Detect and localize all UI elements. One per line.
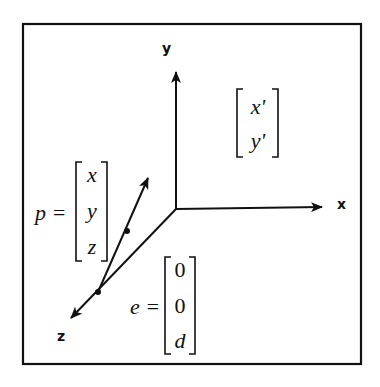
x-axis-label: x [337,197,346,211]
eye-point-dot [95,289,101,295]
e-entry-d: d [168,330,192,352]
z-axis-label: z [57,329,65,343]
projection-diagram: y x z p = x y z e = 0 0 d x' y' [0,0,380,387]
p-entry-y: y [80,200,104,222]
y-axis-label: y [162,41,171,55]
point-p-dot [124,228,130,234]
projected-entry-x: x' [240,96,276,118]
z-axis [71,209,176,318]
e-entry-0b: 0 [168,295,192,317]
x-axis [176,207,322,209]
p-entry-z: z [80,236,104,258]
e-vector-lhs: e = [130,296,160,318]
projected-entry-y: y' [240,130,276,152]
p-vector-lhs: p = [35,202,66,224]
projection-ray [98,178,148,292]
frame-border [23,24,361,364]
p-entry-x: x [80,164,104,186]
e-entry-0a: 0 [168,259,192,281]
